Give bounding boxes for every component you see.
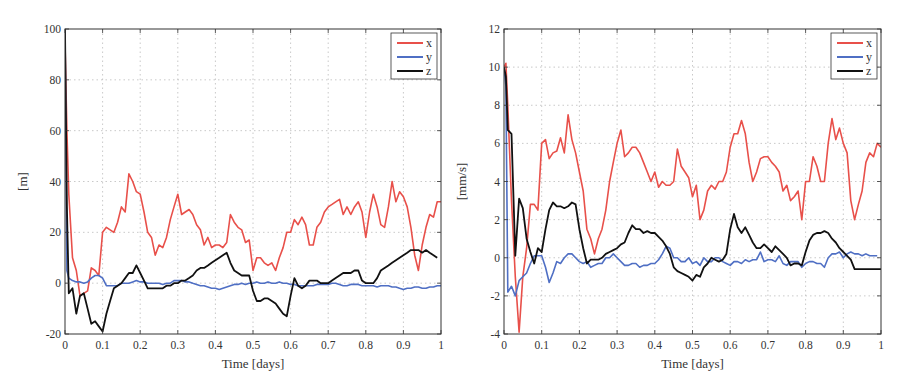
- y-tick-label: 2: [494, 214, 500, 226]
- legend-label-y: y: [866, 50, 872, 64]
- tick-labels: 00.10.20.30.40.50.60.70.80.91-4-20246810…: [489, 23, 885, 351]
- x-tick-label: 0.5: [246, 339, 261, 351]
- x-axis-label: Time [days]: [222, 356, 285, 371]
- series-lines: [504, 63, 881, 332]
- x-tick-label: 0.6: [283, 339, 298, 351]
- legend-label-x: x: [866, 36, 872, 50]
- plot-area: 00.10.20.30.40.50.60.70.80.91-4-20246810…: [454, 23, 884, 371]
- y-tick-label: 12: [489, 23, 501, 35]
- y-tick-label: 6: [494, 137, 500, 149]
- x-tick-label: 0.3: [610, 339, 625, 351]
- y-tick-label: 8: [494, 99, 500, 111]
- legend: xyz: [391, 33, 437, 79]
- y-tick-label: 0: [55, 277, 61, 289]
- x-tick-label: 0.4: [648, 339, 663, 351]
- x-tick-label: 0.7: [761, 339, 776, 351]
- position-chart-svg: 00.10.20.30.40.50.60.70.80.91-2002040608…: [0, 0, 450, 385]
- y-tick-label: -20: [46, 328, 62, 340]
- y-tick-label: 4: [494, 176, 500, 188]
- x-tick-label: 0.2: [133, 339, 148, 351]
- x-axis-label: Time [days]: [661, 356, 724, 371]
- y-tick-label: 80: [50, 74, 62, 86]
- plot-area: 00.10.20.30.40.50.60.70.80.91-2002040608…: [15, 23, 444, 371]
- x-tick-label: 1: [878, 339, 884, 351]
- x-tick-label: 0.5: [685, 339, 700, 351]
- x-tick-label: 0: [501, 339, 507, 351]
- y-tick-label: -2: [490, 290, 500, 302]
- y-tick-label: 20: [50, 226, 62, 238]
- y-tick-label: 10: [489, 61, 501, 73]
- x-tick-label: 0.4: [208, 339, 223, 351]
- series-x-line: [504, 63, 881, 332]
- legend: xyz: [831, 33, 877, 79]
- x-tick-label: 1: [438, 339, 444, 351]
- y-axis-label: [mm/s]: [454, 163, 469, 201]
- x-tick-label: 0.8: [359, 339, 374, 351]
- y-tick-label: 40: [50, 176, 62, 188]
- legend-label-y: y: [426, 50, 432, 64]
- x-tick-label: 0.2: [572, 339, 587, 351]
- x-tick-label: 0.1: [535, 339, 550, 351]
- y-tick-label: 100: [44, 23, 62, 35]
- y-tick-label: -4: [490, 328, 500, 340]
- position-error-chart: 00.10.20.30.40.50.60.70.80.91-2002040608…: [0, 0, 450, 385]
- x-tick-label: 0.6: [723, 339, 738, 351]
- legend-label-z: z: [426, 64, 431, 78]
- velocity-error-chart: 00.10.20.30.40.50.60.70.80.91-4-20246810…: [450, 0, 907, 385]
- x-tick-label: 0.8: [798, 339, 813, 351]
- y-tick-label: 60: [50, 125, 62, 137]
- x-tick-label: 0: [62, 339, 68, 351]
- x-tick-label: 0.3: [171, 339, 186, 351]
- x-tick-label: 0.9: [836, 339, 851, 351]
- x-tick-label: 0.9: [396, 339, 411, 351]
- y-tick-label: 0: [494, 252, 500, 264]
- y-axis-label: [m]: [15, 172, 30, 191]
- x-tick-label: 0.7: [321, 339, 336, 351]
- legend-label-z: z: [866, 64, 871, 78]
- x-tick-label: 0.1: [95, 339, 110, 351]
- velocity-chart-svg: 00.10.20.30.40.50.60.70.80.91-4-20246810…: [450, 0, 907, 385]
- legend-label-x: x: [426, 36, 432, 50]
- tick-labels: 00.10.20.30.40.50.60.70.80.91-2002040608…: [44, 23, 444, 351]
